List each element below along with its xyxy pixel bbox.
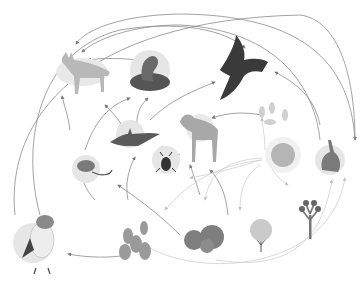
food-web-diagram	[0, 0, 361, 284]
hawk-icon	[220, 35, 268, 100]
shrub-icon	[250, 219, 272, 252]
jackrabbit-icon	[315, 140, 345, 175]
arrows	[14, 14, 355, 257]
kangaroo-rat-icon	[72, 155, 112, 183]
beetle-icon	[152, 146, 180, 174]
seeds-icon	[259, 102, 288, 125]
food-web-canvas	[0, 0, 361, 284]
energy-arrows	[145, 118, 345, 264]
sun-icon	[265, 137, 301, 173]
rattlesnake-icon	[130, 50, 170, 91]
bighorn-sheep-icon	[180, 114, 218, 162]
joshua-tree-icon	[299, 200, 321, 239]
prickly-pear-icon	[119, 221, 151, 260]
barrel-cactus-icon	[184, 225, 224, 253]
bat-icon	[110, 120, 160, 148]
owl-icon	[13, 215, 54, 274]
